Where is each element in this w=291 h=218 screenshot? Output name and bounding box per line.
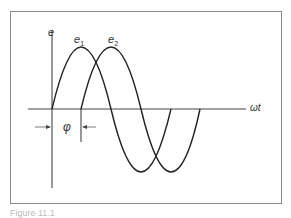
x-axis-label: ωt [250, 103, 261, 113]
curve-e1-label-sub: 1 [80, 40, 84, 47]
figure-caption: Figure 11.1 [10, 208, 55, 218]
arrowhead-left-icon [46, 125, 51, 129]
curve-e2-label: e2 [108, 34, 118, 47]
curve-e2-label-sub: 2 [114, 40, 118, 47]
y-axis-label: e [48, 27, 54, 38]
curve-e1-label: e1 [74, 34, 84, 47]
arrowhead-right-icon [82, 125, 87, 129]
sine-wave-diagram [0, 0, 291, 218]
phase-label: φ [63, 121, 71, 133]
